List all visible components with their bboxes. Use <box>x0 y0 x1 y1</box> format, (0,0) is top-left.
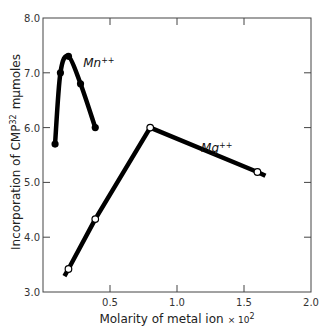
y-tick-label: 7.0 <box>24 68 40 79</box>
x-tick-label: 0.5 <box>102 297 118 308</box>
data-point-mn <box>92 124 99 131</box>
x-tick-label: 1.5 <box>236 297 252 308</box>
chart: 3.04.05.06.07.08.0 0.51.01.52.0 Mn++Mg++… <box>0 0 327 330</box>
x-tick-label: 1.0 <box>169 297 185 308</box>
data-point-mn <box>57 69 64 76</box>
series-line-mg <box>64 128 265 277</box>
data-point-mg <box>92 216 99 223</box>
data-point-mg <box>65 266 72 273</box>
data-point-mn <box>65 53 72 60</box>
data-point-mg <box>147 124 154 131</box>
y-tick-label: 6.0 <box>24 123 40 134</box>
y-tick-labels: 3.04.05.06.07.08.0 <box>24 13 40 298</box>
x-tick-label: 2.0 <box>303 297 319 308</box>
y-tick-label: 3.0 <box>24 287 40 298</box>
data-point-mn <box>77 80 84 87</box>
series-label-mg: Mg++ <box>201 141 232 156</box>
series-label-mn: Mn++ <box>83 56 114 71</box>
x-tick-labels: 0.51.01.52.0 <box>102 297 319 308</box>
data-point-mg <box>254 169 261 176</box>
series-group <box>51 53 265 276</box>
series-labels: Mn++Mg++ <box>83 56 232 155</box>
y-tick-label: 5.0 <box>24 177 40 188</box>
y-axis-title: Incorporation of CMP32mμmoles <box>9 54 24 250</box>
y-tick-label: 8.0 <box>24 13 40 24</box>
y-tick-label: 4.0 <box>24 232 40 243</box>
x-axis-title: Molarity of metal ion× 102 <box>99 312 254 327</box>
data-point-mn <box>51 140 58 147</box>
